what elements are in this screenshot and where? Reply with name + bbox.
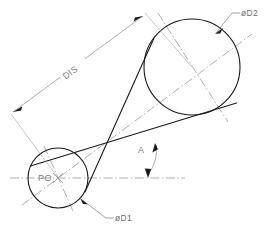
angle-arrowhead-bottom <box>145 169 151 178</box>
d2-label: øD2 <box>241 8 258 18</box>
d2-leader-line <box>216 13 232 33</box>
pulley-belt-drawing: DIS A PO øD2 øD1 <box>0 0 273 233</box>
dis-arrowhead-end <box>134 16 143 22</box>
dim-extension-line-small <box>11 114 58 178</box>
angle-label: A <box>138 145 144 155</box>
belt-tangent-line-lower <box>85 38 154 192</box>
d1-leader-line <box>81 199 106 218</box>
large-pulley-cross-centerline <box>158 13 228 122</box>
origin-label: PO <box>38 173 52 183</box>
belt-tangent-line-upper <box>31 103 237 166</box>
d1-label: øD1 <box>115 213 132 223</box>
angle-arrowhead-top <box>152 143 158 153</box>
technical-drawing-canvas: DIS A PO øD2 øD1 <box>0 0 273 233</box>
